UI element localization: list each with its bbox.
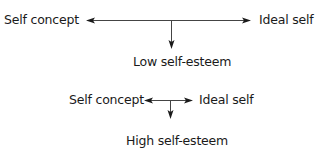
diagram-arrows [0,0,316,159]
low-arrows [86,18,251,50]
high-arrows [144,98,193,120]
